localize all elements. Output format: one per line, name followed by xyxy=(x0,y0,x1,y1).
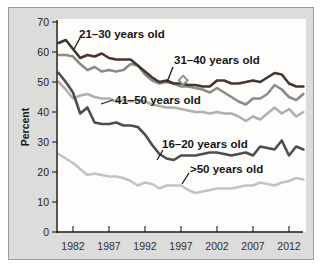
chart-canvas: 0102030405060701982198719921997200220072… xyxy=(0,0,323,270)
series-label-gt-50: >50 years old xyxy=(190,163,263,175)
y-tick-label: 40 xyxy=(37,106,49,118)
x-tick-label: 1997 xyxy=(169,240,193,252)
x-tick-label: 1992 xyxy=(133,240,157,252)
series-label-31-40: 31–40 years old xyxy=(174,54,260,66)
series-line-gt-50 xyxy=(59,154,304,193)
x-tick-label: 2007 xyxy=(241,240,265,252)
label-pointer-gt-50 xyxy=(182,173,189,184)
y-tick-label: 10 xyxy=(37,196,49,208)
y-tick-label: 70 xyxy=(37,16,49,28)
y-tick-label: 20 xyxy=(37,166,49,178)
x-tick-label: 1982 xyxy=(61,240,85,252)
x-tick-label: 2002 xyxy=(205,240,229,252)
label-pointer-31-40 xyxy=(167,67,173,82)
series-label-21-30: 21–30 years old xyxy=(79,28,165,40)
series-label-16-20: 16–20 years old xyxy=(162,138,248,150)
y-tick-label: 60 xyxy=(37,46,49,58)
figure: Percent 01020304050607019821987199219972… xyxy=(0,0,323,270)
series-label-41-50: 41–50 years old xyxy=(115,94,201,106)
x-tick-label: 2012 xyxy=(277,240,301,252)
y-tick-label: 30 xyxy=(37,136,49,148)
y-tick-label: 50 xyxy=(37,76,49,88)
x-tick-label: 1987 xyxy=(97,240,121,252)
y-tick-label: 0 xyxy=(43,226,49,238)
label-pointer-41-50 xyxy=(101,100,113,104)
